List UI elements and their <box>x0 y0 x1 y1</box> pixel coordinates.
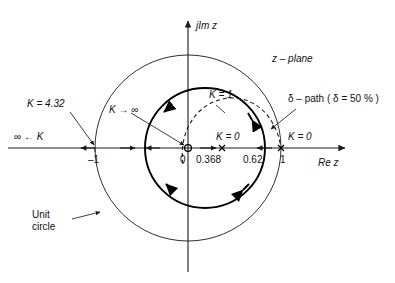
annotation-k-432: K = 4.32 <box>27 98 65 110</box>
tick-label-0368: 0.368 <box>196 154 221 166</box>
annotation-k-infinity: K → ∞ <box>109 104 138 116</box>
leader-delta-path <box>271 109 296 129</box>
imag-axis-label: jIm z <box>196 20 217 32</box>
tick-label-one: 1 <box>280 154 286 166</box>
annotation-k-zero-right: K = 0 <box>288 131 312 143</box>
leader-k-infinity <box>131 113 184 145</box>
annotation-infinity-arrow-k: ∞ ← K <box>14 131 43 143</box>
leader-unit-circle <box>72 212 100 219</box>
annotation-unit-circle-line2: circle <box>32 221 55 233</box>
leader-k-one <box>216 105 225 113</box>
tick-label-062: 0.62 <box>243 154 262 166</box>
leader-k432 <box>70 112 94 145</box>
tick-label-minus-one: –1 <box>88 154 99 166</box>
annotation-delta-path: δ – path ( δ = 50 % ) <box>288 93 379 105</box>
diagram-canvas <box>0 0 395 283</box>
tick-label-origin: 0 <box>180 154 186 166</box>
root-locus-figure: jIm z Re z z – plane K = 4.32 K → ∞ K = … <box>0 0 395 283</box>
annotation-unit-circle-line1: Unit <box>32 209 50 221</box>
real-axis-label: Re z <box>318 157 339 169</box>
annotation-k-zero-left: K = 0 <box>216 131 240 143</box>
plane-label: z – plane <box>272 53 313 65</box>
annotation-k-one: K = 1 <box>209 89 233 101</box>
